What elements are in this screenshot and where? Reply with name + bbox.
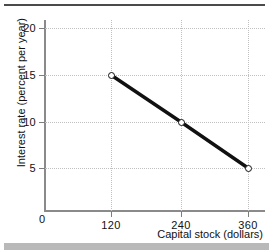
data-point-120-15 (108, 72, 115, 79)
bottom-band-divider (4, 243, 269, 250)
tick-x-240 (181, 211, 182, 217)
y-axis-title: Interest rate (percent per year) (2, 18, 18, 198)
tick-x-120 (111, 211, 112, 217)
y-axis-title-text: Interest rate (percent per year) (15, 18, 27, 167)
series-demand-for-capital (45, 20, 265, 211)
y-tick-label-5: 5 (30, 162, 36, 174)
top-rule-divider (4, 4, 265, 6)
plot-area: 20 15 10 5 120 240 360 (45, 20, 265, 211)
data-point-360-5 (245, 165, 252, 172)
x-axis-title: Capital stock (dollars) (157, 228, 263, 240)
x-tick-label-0: 0 (39, 213, 45, 225)
x-tick-label-120: 120 (101, 219, 120, 231)
chart-figure: 20 15 10 5 120 240 360 0 Capital stock (… (0, 0, 269, 252)
data-point-240-10 (178, 119, 185, 126)
tick-x-360 (248, 211, 249, 217)
